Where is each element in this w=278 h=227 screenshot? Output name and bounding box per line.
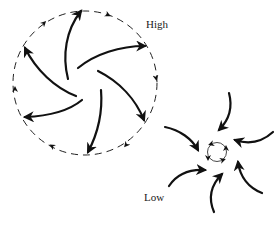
high-pressure-system: [13, 11, 157, 155]
low-pressure-system: [165, 93, 273, 212]
inflow-arrow: [219, 93, 231, 130]
outflow-arrow: [98, 71, 144, 120]
low-center-circle: [208, 143, 227, 162]
inflow-arrow: [235, 132, 273, 142]
high-outflow-arrows: [25, 11, 145, 152]
inflow-arrow: [238, 162, 262, 193]
inflow-arrow: [211, 174, 222, 212]
low-inflow-arrows: [165, 93, 273, 212]
low-pressure-label: Low: [144, 192, 164, 203]
outflow-arrow: [78, 46, 145, 68]
inflow-arrow: [169, 170, 205, 186]
high-boundary-dashed-circle: [13, 11, 157, 155]
pressure-systems-diagram: High Low: [0, 0, 278, 227]
outflow-arrow: [25, 48, 76, 96]
high-boundary-arrowheads: [15, 13, 156, 149]
inflow-arrow: [165, 127, 198, 150]
low-center-arrowheads: [208, 143, 226, 161]
outflow-arrow: [25, 100, 82, 117]
outflow-arrow: [88, 90, 101, 152]
high-pressure-label: High: [146, 19, 168, 30]
